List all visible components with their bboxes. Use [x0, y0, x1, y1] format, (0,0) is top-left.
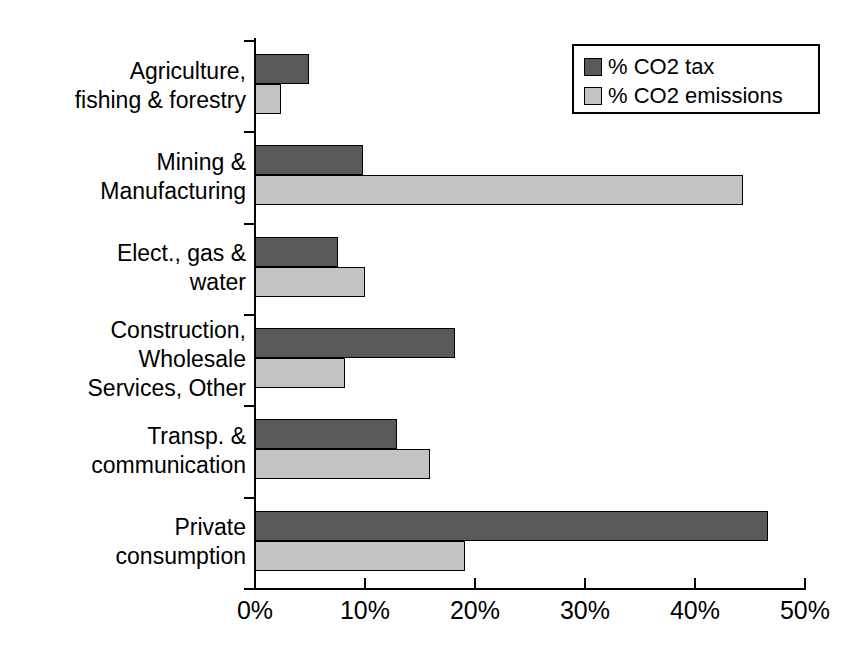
x-tick [474, 578, 476, 590]
bar-co2-emissions [255, 84, 281, 114]
bar-co2-tax [255, 511, 768, 541]
legend-label-co2-emissions: % CO2 emissions [608, 83, 783, 109]
x-tick-label: 20% [435, 595, 515, 625]
x-tick [364, 578, 366, 590]
category-tick [244, 40, 254, 42]
plot-area [255, 40, 805, 588]
x-tick-label: 40% [655, 595, 735, 625]
category-label: Mining & Manufacturing [8, 148, 246, 206]
legend-entry-co2-tax: % CO2 tax [584, 52, 810, 81]
category-label: Transp. & communication [8, 422, 246, 480]
bar-co2-emissions [255, 358, 345, 388]
category-tick [244, 588, 254, 590]
category-label: Private consumption [8, 513, 246, 571]
x-axis-line [254, 588, 806, 590]
bar-group [255, 314, 805, 405]
bar-co2-tax [255, 419, 397, 449]
chart-legend: % CO2 tax % CO2 emissions [572, 44, 820, 114]
category-label: Construction, Wholesale Services, Other [8, 316, 246, 403]
legend-swatch-co2-tax [584, 58, 602, 76]
category-tick [244, 131, 254, 133]
x-tick-label: 30% [545, 595, 625, 625]
bar-co2-emissions [255, 175, 743, 205]
x-tick [694, 578, 696, 590]
category-tick [244, 314, 254, 316]
category-label: Agriculture, fishing & forestry [8, 57, 246, 115]
bar-co2-emissions [255, 541, 465, 571]
x-tick-label: 50% [765, 595, 845, 625]
bar-co2-tax [255, 237, 338, 267]
category-tick [244, 497, 254, 499]
legend-label-co2-tax: % CO2 tax [608, 54, 714, 80]
bar-co2-tax [255, 54, 309, 84]
x-tick [254, 578, 256, 590]
bar-group [255, 405, 805, 496]
category-tick [244, 223, 254, 225]
category-axis-labels: Agriculture, fishing & forestryMining & … [0, 40, 246, 588]
category-tick [244, 405, 254, 407]
bar-group [255, 223, 805, 314]
bar-co2-tax [255, 145, 363, 175]
category-label: Elect., gas & water [8, 239, 246, 297]
bar-co2-emissions [255, 267, 365, 297]
bar-co2-tax [255, 328, 455, 358]
x-tick [804, 578, 806, 590]
x-tick-label: 10% [325, 595, 405, 625]
bar-chart: Agriculture, fishing & forestryMining & … [0, 0, 863, 655]
x-tick-label: 0% [215, 595, 295, 625]
legend-entry-co2-emissions: % CO2 emissions [584, 81, 810, 110]
bar-group [255, 131, 805, 222]
bar-co2-emissions [255, 449, 430, 479]
x-tick [584, 578, 586, 590]
bar-group [255, 497, 805, 588]
legend-swatch-co2-emissions [584, 87, 602, 105]
